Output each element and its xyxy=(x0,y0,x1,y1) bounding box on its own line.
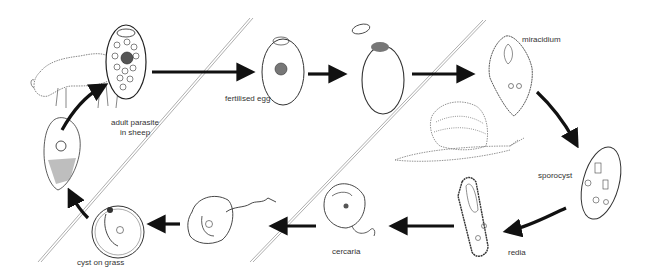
label-cercaria: cercaria xyxy=(332,247,360,257)
sporocyst-illustration xyxy=(574,143,628,224)
label-adult-parasite: adult parasite in sheep xyxy=(92,118,178,138)
adult-parasite-illustration xyxy=(106,25,146,99)
miracidium-illustration xyxy=(489,36,532,116)
redia-illustration xyxy=(458,178,488,257)
cercaria-illustration xyxy=(324,184,375,236)
hatching-egg-illustration xyxy=(351,22,404,114)
label-cyst-on-grass: cyst on grass xyxy=(77,258,124,268)
cyst-illustration xyxy=(92,206,144,258)
arrow-sporocyst-to-redia xyxy=(512,208,566,230)
label-adult-parasite-line2: in sheep xyxy=(92,128,178,138)
snail-illustration xyxy=(395,102,524,161)
cycle-arrows xyxy=(62,72,574,230)
label-miracidium: miracidium xyxy=(522,35,561,45)
life-cycle-diagram: adult parasite in sheep fertilised egg m… xyxy=(0,0,647,280)
label-sporocyst: sporocyst xyxy=(538,171,572,181)
label-adult-parasite-line1: adult parasite xyxy=(92,118,178,128)
encysting-cercaria-illustration xyxy=(188,196,276,243)
label-fertilised-egg: fertilised egg xyxy=(225,94,270,104)
arrow-miracidium-to-sporocyst xyxy=(537,92,574,140)
label-redia: redia xyxy=(508,248,526,258)
sheep-illustration xyxy=(31,54,118,108)
